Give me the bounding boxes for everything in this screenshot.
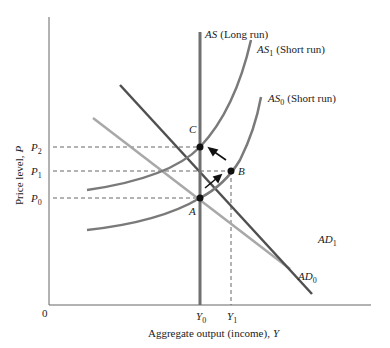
ad1-curve xyxy=(120,85,312,294)
y1-tick-label: Y1 xyxy=(227,310,237,325)
point-a-label: A xyxy=(188,205,196,217)
y-axis-title: Price level,P xyxy=(13,146,25,205)
point-b-label: B xyxy=(238,165,245,177)
ad-as-diagram: C B A AS(Long run) AS1(Short run) AS0(Sh… xyxy=(0,0,390,348)
x-axis-title: Aggregate output (income),Y xyxy=(148,327,281,340)
y0-tick-label: Y0 xyxy=(196,310,206,325)
ad0-label: AD0 xyxy=(297,270,317,285)
as-long-run-label: AS(Long run) xyxy=(204,28,269,41)
as1-curve xyxy=(87,40,251,190)
point-a xyxy=(197,195,204,202)
point-c-label: C xyxy=(189,123,197,135)
point-b xyxy=(228,168,235,175)
dashed-guides xyxy=(53,147,231,305)
point-c xyxy=(197,144,204,151)
as0-label: AS0(Short run) xyxy=(267,92,336,107)
ad1-label: AD1 xyxy=(317,233,337,248)
p0-tick-label: P0 xyxy=(30,192,42,207)
p1-tick-label: P1 xyxy=(30,165,42,180)
origin-label: 0 xyxy=(42,307,48,319)
p2-tick-label: P2 xyxy=(30,141,42,156)
as1-label: AS1(Short run) xyxy=(256,43,325,58)
ad0-curve xyxy=(93,118,290,269)
